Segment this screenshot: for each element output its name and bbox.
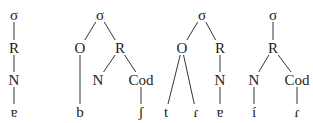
node-label: σ	[198, 7, 206, 23]
node-label: ʃ	[138, 104, 145, 120]
node-label: σ	[269, 7, 277, 23]
node-label: R	[215, 40, 225, 56]
node-label: ɾ	[295, 104, 300, 120]
node-label: R	[268, 40, 278, 56]
edge-s-o	[85, 22, 96, 40]
edge-o-t	[168, 55, 180, 104]
node-label: t	[164, 104, 169, 120]
edge-r-n	[259, 55, 269, 72]
edge-s-r	[206, 22, 216, 40]
tree-edges	[14, 22, 297, 104]
node-label: N	[93, 72, 104, 88]
node-label: Cod	[284, 72, 310, 88]
syllable-tree-diagram: σRNɐσORNCodbʃσORNtɾɐσRNCodíɾ	[0, 0, 313, 123]
tree-labels: σRNɐσORNCodbʃσORNtɾɐσRNCodíɾ	[9, 7, 310, 120]
node-label: R	[115, 40, 125, 56]
edge-r-c	[125, 55, 136, 72]
node-label: R	[9, 40, 19, 56]
node-label: O	[177, 40, 188, 56]
node-label: ɐ	[217, 104, 224, 120]
tree2: σORNCodbʃ	[75, 7, 154, 120]
node-label: ɐ	[11, 104, 18, 120]
node-label: N	[215, 72, 226, 88]
node-label: ɾ	[194, 104, 199, 120]
node-label: N	[9, 72, 20, 88]
tree3: σORNtɾɐ	[164, 7, 226, 120]
node-label: í	[252, 104, 256, 120]
node-label: b	[76, 104, 84, 120]
node-label: σ	[96, 7, 104, 23]
node-label: σ	[10, 7, 18, 23]
node-label: O	[75, 40, 86, 56]
diagram-canvas: σRNɐσORNCodbʃσORNtɾɐσRNCodíɾ	[0, 0, 313, 123]
edge-r-c	[278, 55, 291, 72]
tree4: σRNCodíɾ	[249, 7, 310, 120]
edge-s-r	[104, 22, 115, 40]
node-label: N	[249, 72, 260, 88]
edge-s-o	[187, 22, 198, 40]
edge-o-tap	[184, 55, 195, 104]
node-label: Cod	[128, 72, 154, 88]
edge-r-n	[104, 55, 116, 72]
